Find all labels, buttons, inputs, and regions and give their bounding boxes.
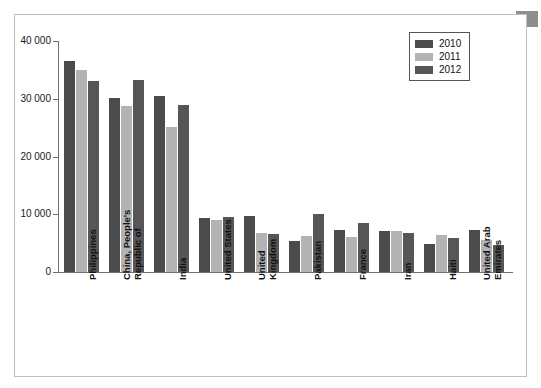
bar-group xyxy=(154,28,191,272)
bar-2010-india[interactable] xyxy=(154,96,165,272)
legend-label: 2012 xyxy=(439,65,461,75)
x-axis-label: United States xyxy=(222,219,233,280)
x-axis-label: Haiti xyxy=(447,259,458,280)
bar-2010-united-kingdom[interactable] xyxy=(244,216,255,272)
x-axis-label-line: United States xyxy=(222,219,233,280)
y-axis-tick-label: 0 xyxy=(45,267,51,277)
bar-2011-philippines[interactable] xyxy=(76,70,87,272)
x-axis-label: China, People'sRepublic of xyxy=(121,210,143,280)
legend-item-2010[interactable]: 2010 xyxy=(415,37,461,50)
bar-2010-united-states[interactable] xyxy=(199,218,210,272)
y-axis-tick-label: 10 000 xyxy=(20,209,51,219)
y-axis-tick-mark xyxy=(53,41,58,42)
x-axis-label-line: United xyxy=(256,239,267,280)
bar-2010-china-people-s-republic-of[interactable] xyxy=(109,98,120,272)
bar-2011-haiti[interactable] xyxy=(436,235,447,272)
x-axis-label-line: China, People's xyxy=(121,210,132,280)
chart-frame: 010 00020 00030 00040 000 PhilippinesChi… xyxy=(14,14,527,377)
x-axis-label-line: Kingdom xyxy=(267,239,278,280)
bar-2010-pakistan[interactable] xyxy=(289,241,300,272)
legend-label: 2011 xyxy=(439,52,461,62)
x-axis-label-line: United Arab xyxy=(481,227,492,280)
y-axis-tick-label: 40 000 xyxy=(20,36,51,46)
legend-item-2012[interactable]: 2012 xyxy=(415,63,461,76)
x-axis-label: France xyxy=(357,249,368,280)
bar-2011-iran[interactable] xyxy=(391,231,402,272)
x-axis-label-line: Emirates xyxy=(492,227,503,280)
bar-group xyxy=(289,28,326,272)
bar-group xyxy=(334,28,371,272)
bar-2010-iran[interactable] xyxy=(379,231,390,272)
x-axis-label-line: Pakistan xyxy=(312,241,323,280)
legend-item-2011[interactable]: 2011 xyxy=(415,50,461,63)
x-axis-label-line: Iran xyxy=(402,263,413,280)
x-axis-label: UnitedKingdom xyxy=(256,239,278,280)
x-axis-label: Philippines xyxy=(87,229,98,280)
bar-2011-france[interactable] xyxy=(346,237,357,272)
bar-2010-united-arab-emirates[interactable] xyxy=(469,230,480,272)
y-axis-tick-mark xyxy=(53,157,58,158)
bar-2011-pakistan[interactable] xyxy=(301,236,312,272)
bar-2012-india[interactable] xyxy=(178,105,189,272)
chart-legend: 201020112012 xyxy=(409,32,470,81)
bar-2010-haiti[interactable] xyxy=(424,244,435,272)
legend-swatch-icon xyxy=(415,40,433,48)
y-axis-tick-mark xyxy=(53,272,58,273)
x-axis-label-line: Philippines xyxy=(87,229,98,280)
x-axis-label: Pakistan xyxy=(312,241,323,280)
x-axis-label-line: Republic of xyxy=(132,210,143,280)
bar-2010-philippines[interactable] xyxy=(64,61,75,272)
x-axis-label: India xyxy=(177,258,188,280)
y-axis-tick-mark xyxy=(53,99,58,100)
x-axis-label-line: Haiti xyxy=(447,259,458,280)
bar-2010-france[interactable] xyxy=(334,230,345,272)
x-axis-label: Iran xyxy=(402,263,413,280)
y-axis-tick-label: 30 000 xyxy=(20,94,51,104)
bar-2011-united-states[interactable] xyxy=(211,220,222,272)
x-axis-label: United ArabEmirates xyxy=(481,227,503,280)
y-axis-tick-mark xyxy=(53,214,58,215)
bar-group xyxy=(244,28,281,272)
y-axis-tick-label: 20 000 xyxy=(20,152,51,162)
legend-swatch-icon xyxy=(415,66,433,74)
legend-label: 2010 xyxy=(439,39,461,49)
x-axis-label-line: India xyxy=(177,258,188,280)
x-axis-label-line: France xyxy=(357,249,368,280)
legend-swatch-icon xyxy=(415,53,433,61)
bar-2011-india[interactable] xyxy=(166,127,177,272)
